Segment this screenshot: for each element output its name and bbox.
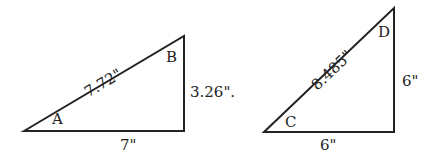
vertical-side-1-label: 3.26". [190,83,235,101]
triangle-2: C D 8.485" 6" 6" [264,8,418,154]
hypotenuse-2-label: 8.485" [308,47,357,94]
angle-d-label: D [378,23,390,41]
angle-c-label: C [285,113,296,131]
triangle-1: A B 7.72" 3.26". 7" [24,36,235,154]
triangles-diagram: A B 7.72" 3.26". 7" C D 8.485" 6" 6" [0,0,431,162]
angle-b-label: B [166,48,177,66]
vertical-side-2-label: 6" [402,72,418,90]
base-1-label: 7" [120,136,136,154]
hypotenuse-1-label: 7.72" [81,65,125,101]
angle-a-label: A [51,110,63,128]
base-2-label: 6" [320,136,336,154]
